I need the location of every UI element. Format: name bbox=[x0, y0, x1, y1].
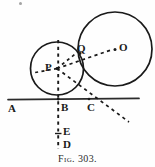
label-d: D bbox=[63, 139, 71, 150]
label-a: A bbox=[8, 103, 16, 114]
label-p: P bbox=[45, 62, 52, 73]
baseline-ac bbox=[8, 98, 139, 99]
figure-caption: Fig. 303. bbox=[0, 153, 155, 164]
label-c: C bbox=[87, 102, 95, 113]
geometry-diagram bbox=[0, 0, 155, 167]
chord-p-upper-right bbox=[57, 51, 79, 69]
figure-caption-number: 303. bbox=[78, 153, 97, 164]
point-marker-o bbox=[114, 48, 117, 51]
scan-speck bbox=[19, 2, 22, 5]
point-marker-p bbox=[56, 67, 59, 70]
label-o: O bbox=[119, 42, 128, 53]
point-marker-b bbox=[57, 98, 60, 101]
figure-container: A B C E D P Q O Fig. 303. bbox=[0, 0, 155, 167]
label-e: E bbox=[63, 126, 70, 137]
point-marker-c bbox=[88, 98, 91, 101]
label-b: B bbox=[61, 102, 68, 113]
secant-pc-extended bbox=[57, 69, 129, 123]
label-q: Q bbox=[77, 43, 86, 54]
figure-caption-prefix: Fig. bbox=[58, 153, 75, 164]
